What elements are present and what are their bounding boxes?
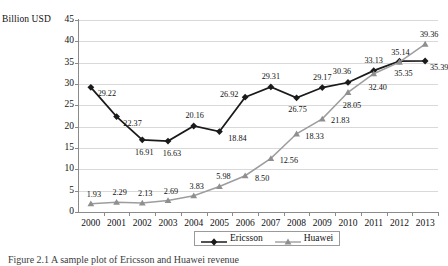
data-label: 35.35	[394, 69, 412, 78]
x-axis-tick-mark	[129, 213, 130, 216]
data-point-marker	[422, 41, 429, 47]
x-axis-tick-mark	[181, 213, 182, 216]
x-axis-tick-mark	[438, 213, 439, 216]
data-label: 3.83	[190, 181, 204, 190]
data-label: 26.92	[220, 90, 238, 99]
data-point-marker	[190, 123, 197, 130]
data-point-marker	[267, 84, 274, 91]
data-point-marker	[165, 138, 172, 145]
x-axis-tick-mark	[104, 213, 105, 216]
y-axis-tick-mark	[75, 63, 78, 64]
x-axis-tick-mark	[258, 213, 259, 216]
y-axis-tick-mark	[75, 84, 78, 85]
x-axis-tick-mark	[361, 213, 362, 216]
legend-item-huawei[interactable]: Huawei	[275, 233, 334, 243]
data-label: 39.36	[420, 30, 438, 39]
y-axis-tick-mark	[75, 105, 78, 106]
data-label: 33.13	[364, 55, 382, 64]
x-axis-tick-mark	[412, 213, 413, 216]
data-label: 35.14	[391, 48, 409, 57]
data-label: 16.63	[163, 149, 181, 158]
legend-marker-diamond-icon	[201, 233, 227, 243]
x-axis-tick-mark	[284, 213, 285, 216]
data-label: 18.33	[305, 131, 323, 140]
x-axis-tick-mark	[207, 213, 208, 216]
y-axis-tick-mark	[75, 148, 78, 149]
y-axis-tick-mark	[75, 20, 78, 21]
data-label: 20.16	[185, 110, 203, 119]
data-point-marker	[293, 131, 300, 137]
data-label: 32.40	[368, 82, 386, 91]
data-point-marker	[293, 94, 300, 101]
data-label: 8.50	[255, 173, 269, 182]
data-point-marker	[345, 79, 352, 86]
y-axis-tick-mark	[75, 212, 78, 213]
x-axis-tick-mark	[155, 213, 156, 216]
y-axis-tick-mark	[75, 127, 78, 128]
chart-legend: Ericsson Huawei	[194, 231, 340, 246]
data-label: 29.17	[313, 72, 331, 81]
data-label: 26.75	[288, 104, 306, 113]
data-label: 28.05	[343, 101, 361, 110]
data-label: 21.83	[331, 115, 349, 124]
data-label: 2.29	[112, 188, 126, 197]
data-label: 30.36	[333, 67, 351, 76]
data-label: 22.37	[123, 118, 141, 127]
y-axis-tick-mark	[75, 169, 78, 170]
data-label: 1.93	[87, 189, 101, 198]
data-label: 35.39	[430, 63, 448, 72]
data-label: 2.69	[164, 186, 178, 195]
legend-marker-triangle-icon	[275, 233, 301, 243]
data-label: 5.98	[216, 172, 230, 181]
x-axis-tick-mark	[335, 213, 336, 216]
data-label: 2.13	[138, 188, 152, 197]
legend-item-ericsson[interactable]: Ericsson	[201, 233, 263, 243]
x-axis-tick-mark	[387, 213, 388, 216]
data-label: 16.91	[135, 147, 153, 156]
data-point-marker	[422, 58, 429, 65]
data-label: 29.22	[98, 89, 116, 98]
data-point-marker	[319, 84, 326, 91]
data-label: 29.31	[262, 71, 280, 80]
y-axis-tick-mark	[75, 191, 78, 192]
figure-caption: Figure 2.1 A sample plot of Ericsson and…	[8, 254, 239, 266]
data-label: 12.56	[280, 156, 298, 165]
data-label: 18.84	[228, 133, 246, 142]
legend-label-ericsson: Ericsson	[230, 233, 263, 243]
y-axis-tick-mark	[75, 41, 78, 42]
x-axis-tick-mark	[309, 213, 310, 216]
x-axis-tick-mark	[232, 213, 233, 216]
legend-label-huawei: Huawei	[304, 233, 334, 243]
